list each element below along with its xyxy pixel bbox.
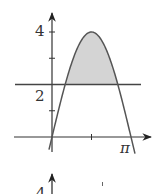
sine-area-figure bbox=[0, 0, 163, 194]
y-tick-label-4: 4 bbox=[35, 24, 45, 39]
next-fig-y-tick-label-4: 4 bbox=[36, 186, 46, 194]
y-tick-label-2: 2 bbox=[35, 89, 45, 104]
x-label-pi: π bbox=[120, 141, 130, 156]
